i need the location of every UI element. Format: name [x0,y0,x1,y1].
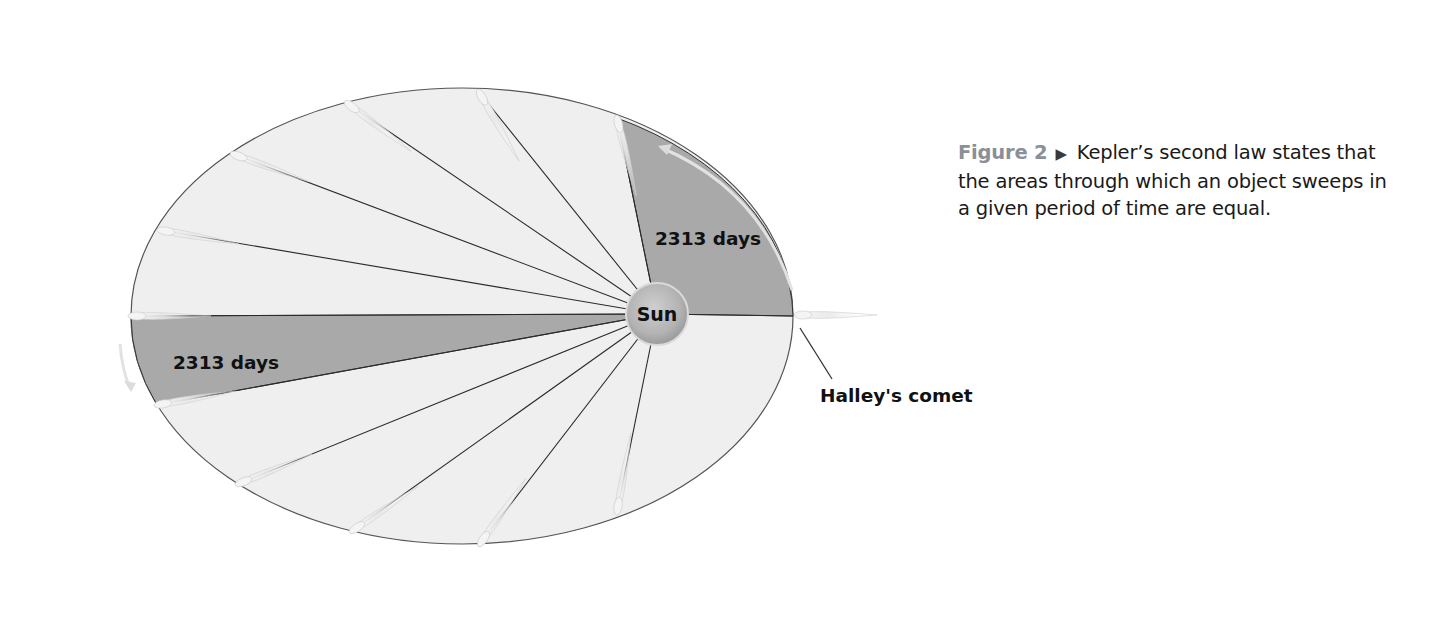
caption-arrow-icon: ▶ [1055,145,1066,163]
comet-callout-line [800,328,832,379]
halleys-comet-label: Halley's comet [820,385,973,406]
sector-top-label: 2313 days [655,228,761,249]
figure-label: Figure 2 [958,141,1047,164]
sector-left-label: 2313 days [173,352,279,373]
kepler-orbit-diagram: Sun 2313 days 2313 days Halley's comet [0,0,1437,633]
sun-label: Sun [637,303,678,325]
motion-arrowhead-left [124,381,136,392]
figure-caption: Figure 2 ▶ Kepler’s second law states th… [958,139,1398,222]
